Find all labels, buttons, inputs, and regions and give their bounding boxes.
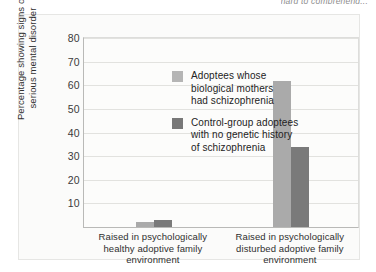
legend-label-1: Control-group adoptees with no genetic h…: [191, 117, 298, 155]
chart-panel: Percentage showing signs of serious ment…: [18, 14, 360, 260]
bar-g0-s0: [136, 222, 154, 227]
y-tick-label-10: 10: [54, 197, 80, 209]
y-tick-label-20: 20: [54, 174, 80, 186]
legend-item-1: Control-group adoptees with no genetic h…: [172, 117, 298, 155]
gridline-70: [84, 62, 358, 63]
legend-swatch-icon-1: [172, 118, 183, 129]
gridline-20: [84, 180, 358, 181]
y-tick-label-40: 40: [54, 127, 80, 139]
gridline-10: [84, 203, 358, 204]
figure: hard to comprehend... Percentage showing…: [0, 0, 376, 272]
y-tick-label-60: 60: [54, 79, 80, 91]
y-axis-label: Percentage showing signs of serious ment…: [15, 0, 39, 123]
legend-label-0: Adoptees whose biological mothers had sc…: [191, 70, 274, 108]
gridline-80: [84, 38, 358, 39]
x-group-label-1: Raised in psychologically disturbed adop…: [215, 231, 365, 266]
y-tick-label-50: 50: [54, 103, 80, 115]
x-group-label-0: Raised in psychologically healthy adopti…: [78, 231, 228, 266]
plot-area: 1020304050607080 Adoptees whose biologic…: [83, 37, 359, 228]
y-tick-label-70: 70: [54, 56, 80, 68]
y-tick-label-30: 30: [54, 150, 80, 162]
legend: Adoptees whose biological mothers had sc…: [172, 70, 298, 163]
legend-swatch-icon-0: [172, 71, 183, 82]
top-caption-fragment: hard to comprehend...: [281, 0, 368, 4]
legend-item-0: Adoptees whose biological mothers had sc…: [172, 70, 298, 108]
y-tick-label-80: 80: [54, 32, 80, 44]
bar-g0-s1: [154, 220, 172, 227]
